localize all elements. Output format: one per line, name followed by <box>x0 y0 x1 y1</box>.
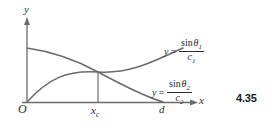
equation-2-denominator: c2 <box>174 93 186 106</box>
y-axis-label: y <box>24 4 29 15</box>
equation-2-fraction: sin θ2 c2 <box>167 79 192 105</box>
x-tick-subscript: c <box>96 110 99 119</box>
sin-function-2: sin <box>169 78 181 89</box>
equation-2-numerator: sin θ2 <box>167 79 192 92</box>
c-subscript-2: 2 <box>180 98 183 105</box>
figure-container: y x O xc d y = sin θ1 c1 y = sin θ2 c2 4… <box>0 0 272 133</box>
x-tick-label-d: d <box>159 104 165 115</box>
equation-2-lhs: y <box>152 87 156 98</box>
figure-plot-area <box>0 0 272 133</box>
origin-label: O <box>18 103 27 115</box>
equation-2-equals: = <box>158 87 164 98</box>
curve-label-equation-1: y = sin θ1 c1 <box>164 38 204 64</box>
equation-1-numerator: sin θ1 <box>179 38 204 51</box>
figure-number-label: 4.35 <box>236 92 257 104</box>
c-subscript-1: 1 <box>192 57 195 64</box>
x-axis-label: x <box>199 95 204 106</box>
x-tick-label-xc: xc <box>91 105 99 119</box>
y-axis-arrow-icon <box>24 17 30 25</box>
equation-1-denominator: c1 <box>186 52 198 65</box>
theta-subscript-1: 1 <box>199 43 202 50</box>
sin-function-1: sin <box>181 37 193 48</box>
equation-1-equals: = <box>170 46 176 57</box>
theta-subscript-2: 2 <box>187 84 190 91</box>
curve-label-equation-2: y = sin θ2 c2 <box>152 79 192 105</box>
curve-decreasing <box>27 48 163 102</box>
equation-1-lhs: y <box>164 46 168 57</box>
equation-1-fraction: sin θ1 c1 <box>179 38 204 64</box>
